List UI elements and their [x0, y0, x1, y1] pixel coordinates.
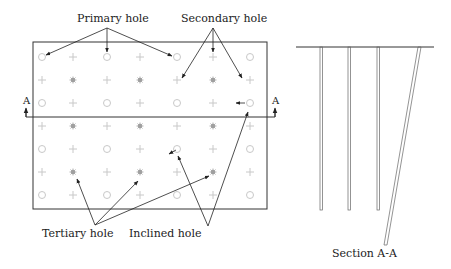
secondary-hole-icon	[38, 122, 46, 130]
secondary-hole-icon	[103, 76, 111, 84]
hole-grid	[38, 53, 254, 199]
section-marker-left: A	[22, 95, 31, 106]
secondary-hole-icon	[136, 53, 144, 61]
secondary-hole-icon	[173, 168, 181, 176]
primary-hole-icon	[104, 192, 111, 199]
primary-hole-icon	[104, 100, 111, 107]
secondary-hole-icon	[38, 168, 46, 176]
tertiary-hole-icon	[70, 169, 77, 176]
primary-hole-icon	[247, 54, 254, 61]
section-view	[296, 47, 434, 245]
primary-hole-icon	[39, 100, 46, 107]
secondary-hole-icon	[246, 168, 254, 176]
tertiary-hole-icon	[210, 123, 217, 130]
secondary-hole-icon	[38, 76, 46, 84]
secondary-hole-icon	[136, 145, 144, 153]
primary-hole-icon	[247, 192, 254, 199]
tertiary-hole-icon	[137, 77, 144, 84]
tertiary-hole-icon	[210, 169, 217, 176]
tertiary-hole-icon	[70, 123, 77, 130]
tertiary-hole-icon	[137, 169, 144, 176]
secondary-hole-arrows	[182, 28, 242, 78]
primary-hole-icon	[174, 146, 181, 153]
primary-hole-label: Primary hole	[77, 12, 149, 25]
plan-boundary	[33, 42, 267, 209]
primary-hole-icon	[247, 146, 254, 153]
secondary-hole-icon	[209, 145, 217, 153]
primary-hole-icon	[174, 192, 181, 199]
inclined-direction-arrows	[169, 103, 245, 154]
grouting-hole-diagram: A A Primary hole Secondary hole Tertiary…	[0, 0, 451, 269]
secondary-hole-icon	[69, 53, 77, 61]
tertiary-hole-icon	[210, 77, 217, 84]
primary-hole-icon	[174, 54, 181, 61]
secondary-hole-icon	[209, 99, 217, 107]
primary-hole-icon	[39, 146, 46, 153]
secondary-hole-icon	[103, 168, 111, 176]
primary-hole-icon	[104, 54, 111, 61]
secondary-hole-icon	[246, 122, 254, 130]
inclined-hole-section	[384, 47, 421, 245]
primary-hole-icon	[39, 54, 46, 61]
section-marker-right: A	[271, 95, 280, 106]
section-caption: Section A-A	[332, 247, 398, 260]
primary-hole-icon	[39, 192, 46, 199]
secondary-hole-icon	[69, 191, 77, 199]
secondary-hole-icon	[173, 122, 181, 130]
secondary-hole-icon	[246, 76, 254, 84]
section-line-a-a	[26, 108, 275, 117]
secondary-hole-icon	[136, 191, 144, 199]
primary-hole-icon	[174, 100, 181, 107]
vertical-holes	[320, 47, 380, 210]
tertiary-hole-icon	[137, 123, 144, 130]
tertiary-hole-icon	[70, 77, 77, 84]
primary-hole-icon	[104, 146, 111, 153]
secondary-hole-icon	[69, 99, 77, 107]
inclined-hole-label: Inclined hole	[129, 227, 202, 240]
secondary-hole-icon	[136, 99, 144, 107]
secondary-hole-icon	[173, 76, 181, 84]
secondary-hole-icon	[103, 122, 111, 130]
tertiary-hole-arrows	[77, 176, 209, 225]
secondary-hole-label: Secondary hole	[181, 12, 267, 25]
primary-hole-icon	[247, 100, 254, 107]
tertiary-hole-label: Tertiary hole	[42, 227, 113, 240]
secondary-hole-icon	[209, 191, 217, 199]
secondary-hole-icon	[209, 53, 217, 61]
secondary-hole-icon	[69, 145, 77, 153]
